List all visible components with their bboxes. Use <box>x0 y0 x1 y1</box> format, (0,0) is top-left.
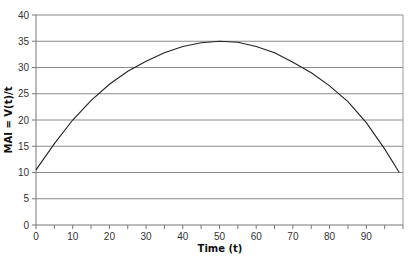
y-tick-label: 40 <box>18 10 30 21</box>
y-tick-label: 15 <box>18 141 30 152</box>
x-tick-label: 30 <box>141 231 153 242</box>
x-axis-label: Time (t) <box>198 243 243 254</box>
y-axis-label: MAI = V(t)/t <box>3 86 14 153</box>
x-tick-label: 80 <box>324 231 336 242</box>
y-tick-label: 25 <box>18 88 30 99</box>
x-tick-label: 50 <box>214 231 226 242</box>
x-tick-label: 90 <box>361 231 373 242</box>
y-tick-label: 0 <box>23 220 29 231</box>
y-tick-label: 5 <box>23 193 29 204</box>
x-tick-label: 20 <box>104 231 116 242</box>
x-tick-label: 40 <box>177 231 189 242</box>
x-tick-label: 60 <box>251 231 263 242</box>
gridlines <box>36 15 403 199</box>
x-axis-ticks: 0102030405060708090 <box>33 225 403 242</box>
x-tick-label: 10 <box>67 231 79 242</box>
mai-curve <box>36 41 399 172</box>
x-tick-label: 0 <box>33 231 39 242</box>
y-tick-label: 35 <box>18 36 30 47</box>
y-tick-label: 20 <box>18 115 30 126</box>
y-tick-label: 10 <box>18 167 30 178</box>
chart: 0510152025303540 0102030405060708090 Tim… <box>0 0 412 267</box>
x-tick-label: 70 <box>287 231 299 242</box>
y-tick-label: 30 <box>18 62 30 73</box>
y-axis-ticks: 0510152025303540 <box>18 10 36 231</box>
